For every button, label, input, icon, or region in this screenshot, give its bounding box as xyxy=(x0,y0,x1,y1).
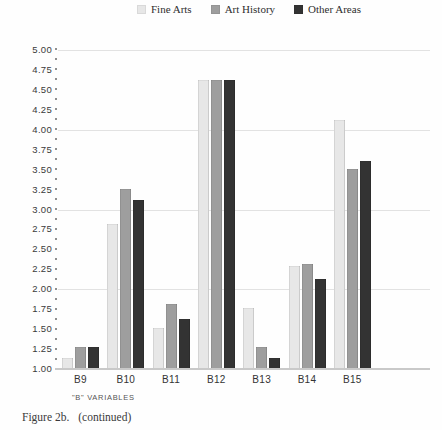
bar-b10-fine-arts xyxy=(107,224,118,368)
bar-b13-fine-arts xyxy=(243,308,254,368)
y-tick-label-1.25: 1.25 xyxy=(0,343,52,354)
bar-b14-other-areas xyxy=(315,279,326,368)
x-tick-label-b15: B15 xyxy=(335,374,369,385)
y-tick-label-4.50: 4.50 xyxy=(0,84,52,95)
y-tick-label-5.00: 5.00 xyxy=(0,44,52,55)
y-tick-label-2.00: 2.00 xyxy=(0,283,52,294)
x-tick-label-b10: B10 xyxy=(109,374,143,385)
figure-continued-note: (continued) xyxy=(78,411,131,423)
bar-b12-art-history xyxy=(211,80,222,368)
figure-label: Figure 2b. xyxy=(22,411,69,423)
y-tick-label-4.00: 4.00 xyxy=(0,124,52,135)
bar-chart-plot-area: 5.004.754.504.254.003.753.503.253.002.75… xyxy=(0,0,442,430)
x-tick-label-b14: B14 xyxy=(290,374,324,385)
x-axis-baseline xyxy=(55,368,430,370)
gridline-5.00 xyxy=(58,50,430,51)
bar-b15-other-areas xyxy=(360,161,371,368)
bar-b13-other-areas xyxy=(269,358,280,368)
y-tick-label-1.75: 1.75 xyxy=(0,303,52,314)
figure-caption: Figure 2b.(continued) xyxy=(22,411,131,423)
x-tick-label-b12: B12 xyxy=(199,374,233,385)
bar-b9-fine-arts xyxy=(62,358,73,368)
bar-b14-art-history xyxy=(302,264,313,368)
y-tick-label-4.75: 4.75 xyxy=(0,64,52,75)
y-tick-label-3.75: 3.75 xyxy=(0,144,52,155)
bar-b10-art-history xyxy=(120,189,131,368)
bar-b13-art-history xyxy=(256,347,267,368)
gridline-3.00 xyxy=(58,210,430,211)
x-tick-label-b13: B13 xyxy=(245,374,279,385)
bar-b15-fine-arts xyxy=(334,120,345,368)
figure-2b-bar-chart: Fine ArtsArt HistoryOther Areas 5.004.75… xyxy=(0,0,442,430)
y-tick-label-2.75: 2.75 xyxy=(0,223,52,234)
bar-b9-other-areas xyxy=(88,347,99,368)
y-tick-label-1.00: 1.00 xyxy=(0,363,52,374)
bar-b11-other-areas xyxy=(179,319,190,368)
y-tick-label-2.50: 2.50 xyxy=(0,243,52,254)
bar-b11-art-history xyxy=(166,304,177,368)
y-tick-label-3.25: 3.25 xyxy=(0,184,52,195)
bar-b14-fine-arts xyxy=(289,266,300,368)
x-tick-label-b9: B9 xyxy=(64,374,98,385)
bar-b11-fine-arts xyxy=(153,328,164,368)
y-axis-tick-dots xyxy=(55,48,57,372)
y-tick-label-3.50: 3.50 xyxy=(0,164,52,175)
y-tick-label-3.00: 3.00 xyxy=(0,204,52,215)
gridline-4.00 xyxy=(58,130,430,131)
bar-b15-art-history xyxy=(347,169,358,368)
y-tick-label-2.25: 2.25 xyxy=(0,263,52,274)
bar-b9-art-history xyxy=(75,347,86,368)
bar-b12-fine-arts xyxy=(198,80,209,368)
bar-b12-other-areas xyxy=(224,80,235,368)
y-tick-label-1.50: 1.50 xyxy=(0,323,52,334)
x-tick-label-b11: B11 xyxy=(154,374,188,385)
bar-b10-other-areas xyxy=(133,200,144,368)
x-axis-title: "B" VARIABLES xyxy=(72,393,135,402)
y-tick-label-4.25: 4.25 xyxy=(0,104,52,115)
